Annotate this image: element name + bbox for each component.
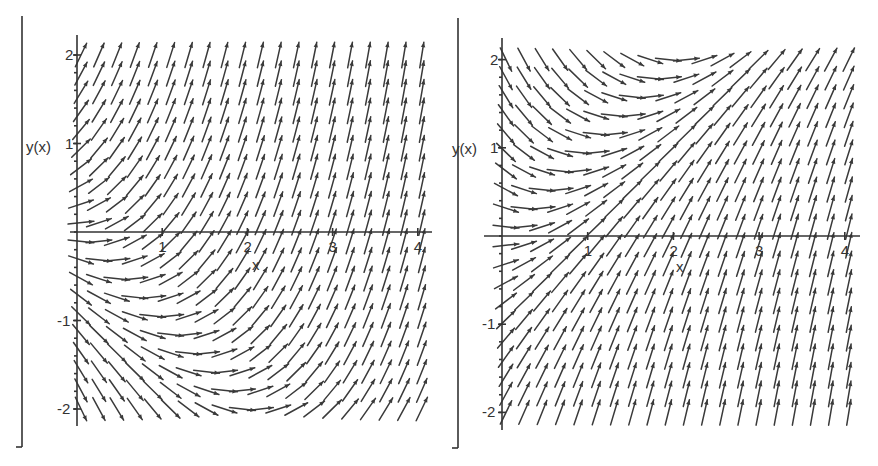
- slope-arrow: [177, 291, 200, 303]
- slope-arrow: [108, 176, 127, 194]
- right-x-axis-label: x: [676, 258, 684, 275]
- slope-arrow: [498, 346, 513, 367]
- slope-arrow: [253, 287, 268, 308]
- slope-arrow: [518, 48, 530, 71]
- slope-arrow: [517, 86, 532, 107]
- x-tick-label: 3: [755, 242, 763, 259]
- slope-arrow: [584, 111, 609, 120]
- slope-arrow: [110, 398, 124, 420]
- slope-arrow: [495, 183, 518, 195]
- slope-arrow: [695, 106, 714, 124]
- slope-arrow: [289, 305, 303, 327]
- slope-arrow: [287, 363, 306, 381]
- slope-arrow: [123, 328, 146, 340]
- slope-arrow: [498, 105, 513, 126]
- slope-arrow: [513, 165, 536, 177]
- slope-arrow: [146, 156, 160, 178]
- slope-arrow: [307, 342, 322, 363]
- slope-arrow: [123, 235, 146, 247]
- slope-arrow: [734, 123, 748, 145]
- slope-arrow: [91, 343, 108, 363]
- slope-arrow: [217, 249, 232, 270]
- slope-arrow: [74, 342, 89, 363]
- slope-arrow: [285, 403, 308, 415]
- slope-arrow: [92, 379, 106, 401]
- slope-arrow: [714, 105, 731, 125]
- slope-arrow: [624, 198, 641, 218]
- x-tick-label: 2: [669, 242, 677, 259]
- slope-arrow: [517, 346, 531, 368]
- slope-arrow: [73, 324, 90, 344]
- x-tick-label: 3: [329, 238, 337, 255]
- slope-arrow: [534, 87, 551, 107]
- x-tick-label: 1: [158, 238, 166, 255]
- left-plot-panel: 123421-1-2 y(x) x: [16, 16, 432, 447]
- slope-arrow: [158, 349, 183, 358]
- slope-arrow: [93, 398, 105, 421]
- slope-arrow: [163, 193, 178, 214]
- y-tick-label: 2: [490, 51, 498, 68]
- slope-arrow: [73, 120, 90, 140]
- slope-arrow: [585, 183, 608, 195]
- slope-arrow: [639, 128, 662, 140]
- left-y-axis-label: y(x): [26, 138, 51, 155]
- slope-arrow: [252, 306, 269, 326]
- slope-arrow: [607, 235, 622, 256]
- y-tick-label: -2: [482, 403, 495, 420]
- slope-arrow: [770, 86, 784, 108]
- slope-arrow: [162, 213, 179, 233]
- slope-arrow: [641, 162, 660, 180]
- slope-arrow: [625, 234, 639, 256]
- y-tick-label: 2: [65, 46, 73, 63]
- slope-arrow: [749, 51, 768, 69]
- slope-arrow: [567, 109, 590, 121]
- slope-arrow: [787, 49, 802, 70]
- slope-arrow: [552, 68, 569, 88]
- slope-arrow: [249, 366, 272, 378]
- slope-arrow: [733, 105, 748, 126]
- slope-arrow: [143, 214, 162, 232]
- slope-arrow: [197, 269, 216, 287]
- slope-arrow: [194, 386, 219, 395]
- slope-arrow: [495, 276, 518, 288]
- slope-arrow: [698, 160, 712, 182]
- slope-arrow: [69, 199, 94, 208]
- slope-arrow: [537, 400, 547, 424]
- slope-arrow: [660, 161, 677, 181]
- slope-arrow: [218, 230, 232, 252]
- slope-arrow: [72, 307, 91, 325]
- slope-arrow: [233, 307, 252, 325]
- slope-arrow: [216, 269, 233, 289]
- slope-arrow: [74, 100, 89, 121]
- slope-arrow: [587, 51, 606, 69]
- slope-arrow: [343, 380, 358, 401]
- slope-arrow: [620, 74, 645, 83]
- slope-arrow: [212, 405, 237, 414]
- slope-arrow: [553, 49, 568, 70]
- slope-arrow: [91, 361, 106, 382]
- slope-arrow: [126, 175, 143, 195]
- slope-arrow: [556, 400, 565, 424]
- slope-arrow: [659, 143, 678, 161]
- slope-arrow: [144, 194, 161, 214]
- slope-arrow: [644, 216, 658, 238]
- slope-arrow: [324, 380, 341, 400]
- slope-arrow: [361, 398, 376, 419]
- slope-arrow: [108, 344, 127, 362]
- slope-arrow: [662, 197, 676, 219]
- slope-arrow: [343, 361, 357, 383]
- slope-arrow: [530, 167, 555, 176]
- x-tick-label: 1: [584, 242, 592, 259]
- slope-arrow: [94, 43, 104, 67]
- slope-arrow: [680, 179, 694, 201]
- slope-arrow: [213, 328, 236, 340]
- right-plot-panel: 123421-1-2 y(x) x: [452, 18, 860, 448]
- slope-arrow: [607, 253, 621, 275]
- slope-arrow: [605, 199, 624, 217]
- slope-arrow: [88, 291, 111, 303]
- slope-arrow: [602, 93, 627, 102]
- slope-arrow: [713, 88, 732, 106]
- slope-arrow: [535, 49, 549, 71]
- slope-arrow: [198, 250, 215, 270]
- slope-arrow: [768, 50, 785, 70]
